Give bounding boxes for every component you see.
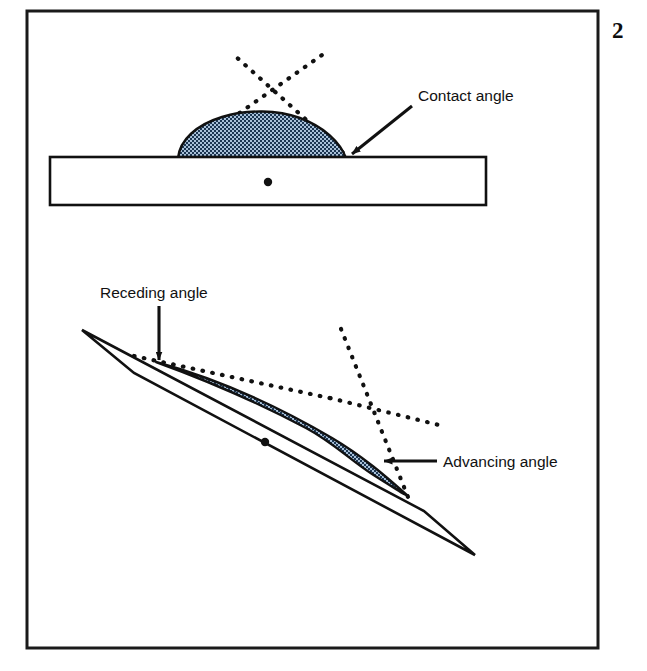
figure-frame [27, 11, 598, 648]
contact-angle-label: Contact angle [418, 87, 514, 104]
contact-angle-diagram: 2 Contact angle [0, 0, 647, 671]
slab-center-dot [261, 438, 269, 446]
figure-number: 2 [612, 18, 624, 43]
figure-container: 2 Contact angle [0, 0, 647, 671]
slab-center-dot [264, 178, 272, 186]
advancing-angle-label: Advancing angle [443, 453, 558, 470]
receding-angle-label: Receding angle [100, 284, 208, 301]
